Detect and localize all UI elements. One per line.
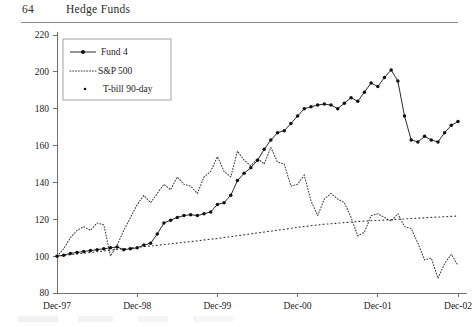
data-point-fund4: [249, 166, 253, 170]
header-divider: [21, 22, 458, 23]
data-point-fund4: [236, 179, 240, 183]
x-tick-label: Dec-98: [123, 301, 151, 311]
y-tick-label: 160: [35, 141, 50, 151]
data-point-fund4: [309, 105, 313, 109]
data-point-fund4: [336, 107, 340, 111]
data-point-fund4: [75, 251, 79, 255]
data-point-fund4: [356, 100, 360, 104]
x-tick-label: Dec-01: [364, 301, 392, 311]
data-point-fund4: [55, 254, 59, 258]
data-point-fund4: [135, 246, 139, 250]
page-number: 64: [22, 3, 34, 15]
data-point-fund4: [276, 131, 280, 135]
data-point-fund4: [82, 250, 86, 254]
book-page: 64 Hedge Funds 80100120140160180200220 D…: [0, 0, 474, 327]
data-point-fund4: [282, 129, 286, 133]
data-point-fund4: [416, 140, 420, 144]
data-point-fund4: [363, 90, 367, 94]
x-tick-label: Dec-02: [444, 301, 472, 311]
data-point-fund4: [122, 248, 126, 252]
data-point-fund4: [89, 249, 93, 253]
legend-label-sp500: S&P 500: [98, 66, 132, 76]
data-point-fund4: [329, 103, 333, 107]
page-bottom-artifact: [18, 316, 268, 322]
data-point-fund4: [216, 203, 220, 207]
data-point-fund4: [182, 214, 186, 218]
data-point-fund4: [396, 79, 400, 83]
y-tick-label: 220: [35, 30, 50, 40]
data-point-fund4: [189, 213, 193, 217]
data-point-fund4: [289, 122, 293, 126]
data-point-fund4: [450, 124, 454, 128]
data-point-fund4: [296, 114, 300, 118]
data-point-fund4: [95, 248, 99, 252]
legend-label-fund4: Fund 4: [101, 47, 128, 57]
data-point-fund4: [142, 243, 146, 247]
data-point-fund4: [423, 135, 427, 139]
data-point-fund4: [102, 247, 106, 251]
chapter-title: Hedge Funds: [66, 3, 130, 15]
data-point-fund4: [436, 140, 440, 144]
data-point-fund4: [443, 131, 447, 135]
data-point-fund4: [389, 68, 393, 72]
data-point-fund4: [369, 81, 373, 85]
series-line-sp500: [57, 147, 458, 278]
data-point-fund4: [129, 247, 133, 251]
data-point-fund4: [69, 252, 73, 256]
chart-legend: Fund 4 S&P 500 T-bill 90-day: [63, 39, 171, 100]
data-point-fund4: [169, 218, 173, 222]
data-point-fund4: [209, 210, 213, 214]
data-point-fund4: [156, 232, 160, 236]
running-head: 64 Hedge Funds: [0, 0, 474, 26]
data-point-fund4: [430, 138, 434, 142]
y-axis-ticks: 80100120140160180200220: [35, 30, 57, 298]
y-tick-label: 120: [35, 215, 50, 225]
data-point-fund4: [409, 138, 413, 142]
y-tick-label: 80: [40, 288, 50, 298]
y-tick-label: 180: [35, 104, 50, 114]
data-point-fund4: [269, 138, 273, 142]
line-chart: 80100120140160180200220 Dec-97Dec-98Dec-…: [0, 26, 474, 327]
data-point-fund4: [115, 245, 119, 249]
data-point-fund4: [343, 101, 347, 105]
data-point-fund4: [303, 107, 307, 111]
legend-label-tbill: T-bill 90-day: [103, 84, 153, 94]
x-axis-ticks: Dec-97Dec-98Dec-99Dec-00Dec-01Dec-02: [43, 293, 472, 311]
data-point-fund4: [109, 246, 113, 250]
legend-marker-fund4: [81, 50, 85, 54]
data-point-fund4: [176, 216, 180, 220]
data-point-fund4: [202, 212, 206, 216]
legend-swatch-tbill: [84, 88, 87, 91]
data-point-fund4: [256, 159, 260, 163]
data-point-fund4: [242, 171, 246, 175]
data-point-fund4: [456, 120, 460, 124]
series-line-tbill: [57, 216, 458, 256]
data-point-fund4: [262, 148, 266, 152]
y-tick-label: 200: [35, 67, 50, 77]
data-point-fund4: [62, 253, 66, 257]
x-tick-label: Dec-00: [284, 301, 312, 311]
data-point-fund4: [383, 76, 387, 80]
data-point-fund4: [376, 85, 380, 89]
data-point-fund4: [196, 214, 200, 218]
data-point-fund4: [349, 96, 353, 100]
y-tick-label: 100: [35, 252, 50, 262]
data-point-fund4: [403, 114, 407, 118]
y-tick-label: 140: [35, 178, 50, 188]
performance-chart-figure: 80100120140160180200220 Dec-97Dec-98Dec-…: [0, 26, 474, 327]
x-tick-label: Dec-97: [43, 301, 71, 311]
data-point-fund4: [323, 102, 327, 106]
data-point-fund4: [316, 103, 320, 107]
data-point-fund4: [229, 194, 233, 198]
data-point-fund4: [149, 241, 153, 245]
data-point-fund4: [222, 201, 226, 205]
data-point-fund4: [162, 221, 166, 225]
x-tick-label: Dec-99: [203, 301, 231, 311]
